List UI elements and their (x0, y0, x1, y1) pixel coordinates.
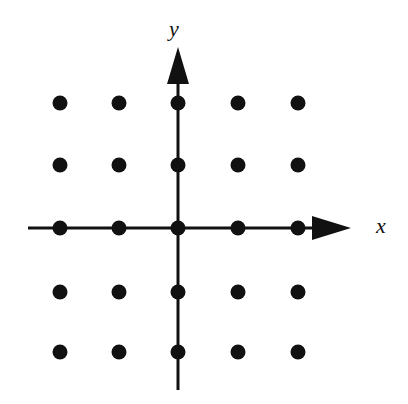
lattice-point (231, 158, 246, 173)
figure-background (0, 0, 408, 404)
x-axis-label: x (375, 213, 386, 238)
lattice-point (112, 221, 127, 236)
lattice-point (231, 96, 246, 111)
lattice-point (291, 158, 306, 173)
lattice-point (171, 96, 186, 111)
lattice-point (53, 158, 68, 173)
lattice-point (112, 285, 127, 300)
lattice-point (112, 158, 127, 173)
lattice-point (53, 285, 68, 300)
lattice-point (291, 345, 306, 360)
lattice-point (231, 221, 246, 236)
lattice-point (112, 96, 127, 111)
lattice-point (171, 158, 186, 173)
lattice-point (171, 221, 186, 236)
lattice-point (53, 96, 68, 111)
lattice-point (291, 285, 306, 300)
figure-canvas: x y (0, 0, 408, 404)
lattice-point (291, 96, 306, 111)
lattice-point (291, 221, 306, 236)
lattice-point (231, 285, 246, 300)
lattice-point (171, 345, 186, 360)
y-axis-label: y (167, 16, 179, 41)
lattice-point (231, 345, 246, 360)
lattice-point (53, 221, 68, 236)
lattice-point (171, 285, 186, 300)
lattice-figure: x y (0, 0, 408, 404)
lattice-point (53, 345, 68, 360)
lattice-point (112, 345, 127, 360)
